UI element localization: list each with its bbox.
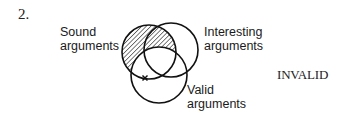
valid-label: Valid arguments xyxy=(187,83,246,111)
valid-label-line2: arguments xyxy=(187,97,246,111)
interesting-label: Interesting arguments xyxy=(204,25,263,53)
verdict-label: INVALID xyxy=(277,67,328,83)
interesting-label-line2: arguments xyxy=(204,39,263,53)
sound-label-line1: Sound xyxy=(60,25,119,39)
venn-diagram xyxy=(0,0,345,116)
sound-label-line2: arguments xyxy=(60,39,119,53)
valid-label-line1: Valid xyxy=(187,83,246,97)
interesting-label-line1: Interesting xyxy=(204,25,263,39)
sound-label: Sound arguments xyxy=(60,25,119,53)
